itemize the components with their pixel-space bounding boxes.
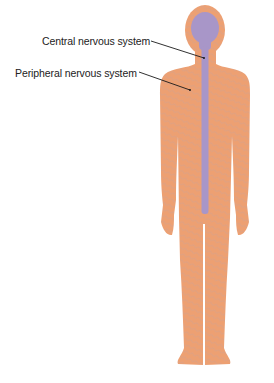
central-nervous-system-label: Central nervous system	[42, 35, 150, 47]
peripheral-nervous-system-label: Peripheral nervous system	[15, 67, 137, 79]
pns-pointer-dot	[189, 89, 191, 91]
spinal-cord	[202, 46, 209, 214]
cns-pointer-dot	[203, 57, 205, 59]
nervous-system-diagram	[0, 0, 274, 383]
